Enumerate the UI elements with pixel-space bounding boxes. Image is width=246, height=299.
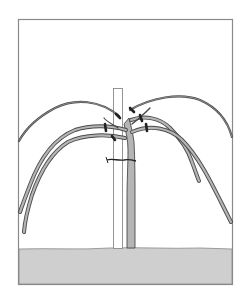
frame — [19, 20, 233, 285]
vine-illustration — [0, 0, 246, 299]
figure-caption — [16, 292, 230, 299]
ground — [19, 248, 232, 284]
